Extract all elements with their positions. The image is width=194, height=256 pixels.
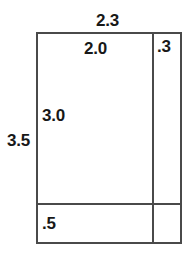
overall-height-label: 3.5 (7, 132, 30, 149)
rectangle-bottom-edge (36, 242, 182, 244)
inner-width-label: 2.0 (84, 40, 107, 57)
vertical-divider-line (152, 32, 154, 244)
rectangle-left-edge (36, 32, 38, 244)
right-strip-width-label: .3 (157, 38, 171, 55)
inner-height-label: 3.0 (42, 107, 65, 124)
horizontal-divider-line (36, 203, 182, 205)
rectangle-right-edge (180, 32, 182, 244)
rectangle-top-edge (36, 32, 182, 34)
diagram-canvas: 2.3 2.0 .3 3.5 3.0 .5 (0, 0, 194, 256)
overall-width-label: 2.3 (96, 12, 119, 29)
bottom-strip-height-label: .5 (42, 215, 56, 232)
